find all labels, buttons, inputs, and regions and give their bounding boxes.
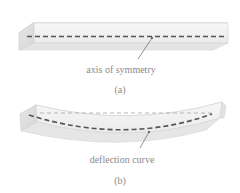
panel-a: axis of symmetry (a) <box>19 23 228 96</box>
beam-deflection-diagram: axis of symmetry (a) deflection curve (b… <box>0 0 240 193</box>
deflection-curve-label: deflection curve <box>90 154 155 165</box>
beam-bottom-edge <box>19 43 228 50</box>
axis-leader-dot <box>151 37 153 39</box>
axis-of-symmetry-label: axis of symmetry <box>86 64 155 75</box>
straight-beam <box>19 23 228 50</box>
panel-b: deflection curve (b) <box>20 102 226 187</box>
deflected-beam <box>20 102 226 142</box>
deflection-leader-dot <box>148 131 150 133</box>
panel-b-label: (b) <box>114 175 126 187</box>
panel-a-label: (a) <box>114 84 125 96</box>
beam-front-face <box>34 23 228 43</box>
